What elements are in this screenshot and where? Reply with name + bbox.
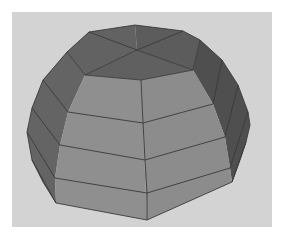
dome-mesh [0,0,284,237]
